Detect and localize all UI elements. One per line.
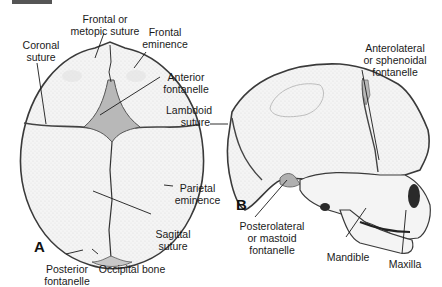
- label-lambdoid-suture: Lambdoid suture: [166, 104, 210, 128]
- label-line: Posterolateral: [232, 220, 312, 232]
- label-line: Anterior: [156, 71, 216, 83]
- panel-b-letter: B: [236, 196, 247, 213]
- label-line: suture: [16, 51, 66, 63]
- label-posterolateral-fontanelle: Posterolateral or mastoid fontanelle: [232, 220, 312, 256]
- label-line: Sagittal: [148, 228, 198, 240]
- label-line: suture: [148, 240, 198, 252]
- label-line: eminence: [170, 194, 225, 206]
- label-line: Posterior: [39, 263, 95, 275]
- label-line: or mastoid: [232, 232, 312, 244]
- label-line: fontanelle: [156, 83, 216, 95]
- label-parietal-eminence: Parietal eminence: [170, 182, 225, 206]
- label-maxilla: Maxilla: [383, 258, 427, 270]
- ear-canal: [320, 203, 330, 211]
- label-line: Occipital bone: [97, 263, 167, 275]
- panel-a-letter: A: [34, 238, 45, 255]
- label-line: fontanelle: [39, 275, 95, 287]
- label-line: Mandible: [323, 251, 373, 263]
- label-frontal-eminence: Frontal eminence: [135, 26, 195, 50]
- label-line: Anterolateral: [354, 42, 436, 54]
- label-line: fontanelle: [354, 66, 436, 78]
- orbit: [408, 184, 420, 208]
- label-line: Parietal: [170, 182, 225, 194]
- label-coronal-suture: Coronal suture: [16, 39, 66, 63]
- label-line: Maxilla: [383, 258, 427, 270]
- label-line: suture: [166, 116, 210, 128]
- label-line: or sphenoidal: [354, 54, 436, 66]
- label-mandible: Mandible: [323, 251, 373, 263]
- label-line: fontanelle: [232, 244, 312, 256]
- label-line: Lambdoid: [166, 104, 210, 116]
- label-sagittal-suture: Sagittal suture: [148, 228, 198, 252]
- label-posterior-fontanelle: Posterior fontanelle: [39, 263, 95, 287]
- label-line: Frontal or: [57, 13, 153, 25]
- label-line: Frontal: [135, 26, 195, 38]
- label-anterolateral-fontanelle: Anterolateral or sphenoidal fontanelle: [354, 42, 436, 78]
- label-line: Coronal: [16, 39, 66, 51]
- label-occipital-bone: Occipital bone: [97, 263, 167, 275]
- label-line: eminence: [135, 38, 195, 50]
- label-anterior-fontanelle: Anterior fontanelle: [156, 71, 216, 95]
